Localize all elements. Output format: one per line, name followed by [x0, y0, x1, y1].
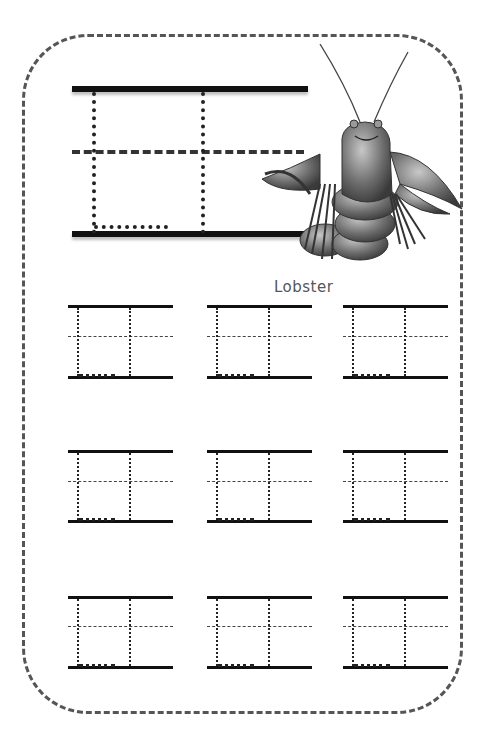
- h-crossbar-trace: [94, 225, 168, 233]
- h-right-stroke-trace: [201, 92, 205, 234]
- picture-caption: Lobster: [274, 278, 333, 296]
- practice-box-r3-c1: [68, 596, 173, 670]
- lobster-illustration: [250, 44, 465, 276]
- practice-box-r1-c1: [68, 305, 173, 379]
- practice-box-r2-c1: [68, 450, 173, 524]
- practice-box-r3-c3: [343, 596, 448, 670]
- practice-box-r2-c3: [343, 450, 448, 524]
- h-left-stroke-trace: [92, 92, 96, 234]
- practice-box-r1-c2: [207, 305, 312, 379]
- practice-box-r2-c2: [207, 450, 312, 524]
- practice-box-r1-c3: [343, 305, 448, 379]
- practice-box-r3-c2: [207, 596, 312, 670]
